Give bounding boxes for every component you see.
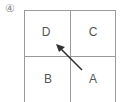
arrow-a-to-d-icon: [0, 0, 121, 102]
